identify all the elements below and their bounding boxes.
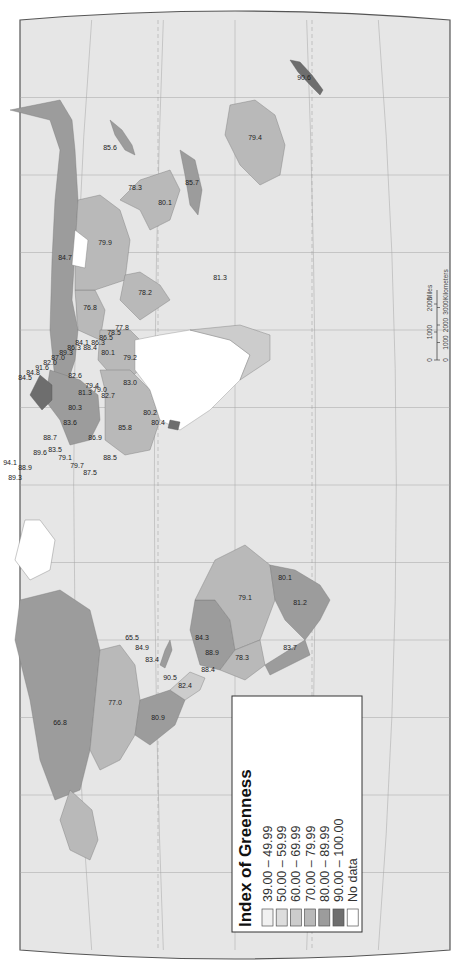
- region-value-label: 78.3: [235, 654, 249, 661]
- region-value-label: 87.5: [83, 469, 97, 476]
- legend-item: 70.00 – 79.99: [304, 825, 318, 926]
- region-value-label: 82.7: [101, 392, 115, 399]
- legend-swatch: [319, 909, 330, 926]
- region-value-label: 80.2: [143, 409, 157, 416]
- region-value-label: 82.4: [178, 682, 192, 689]
- region-value-label: 81.2: [293, 599, 307, 606]
- region-value-label: 83.4: [145, 656, 159, 663]
- region-value-label: 88.7: [43, 434, 57, 441]
- region-value-label: 88.5: [103, 454, 117, 461]
- region-value-label: 79.2: [123, 354, 137, 361]
- region-value-label: 85.8: [118, 424, 132, 431]
- region-value-label: 82.6: [68, 372, 82, 379]
- scale-km-label: 2000: [442, 317, 449, 332]
- scale-km-label: 3000: [442, 300, 449, 315]
- region-value-label: 80.1: [158, 199, 172, 206]
- legend-label: No data: [346, 858, 360, 902]
- legend-item: 80.00 – 89.99: [318, 825, 332, 926]
- region-value-label: 80.4: [151, 419, 165, 426]
- region-value-label: 81.3: [78, 389, 92, 396]
- region-value-label: 88.4: [201, 666, 215, 673]
- legend-title: Index of Greenness: [236, 769, 255, 927]
- map-canvas: 66.877.080.982.490.583.484.965.584.388.9…: [0, 0, 470, 971]
- region-value-label: 79.7: [70, 462, 84, 469]
- region-value-label: 94.1: [3, 459, 17, 466]
- region-value-label: 86.9: [88, 434, 102, 441]
- scale-km-label: 1000: [442, 335, 449, 350]
- legend-item: 39.00 – 49.99: [261, 825, 275, 926]
- region-value-label: 78.2: [138, 289, 152, 296]
- region-value-label: 81.3: [213, 274, 227, 281]
- region-value-label: 83.6: [63, 419, 77, 426]
- region-value-label: 84.7: [58, 254, 72, 261]
- region-value-label: 66.8: [53, 719, 67, 726]
- region-value-label: 85.7: [185, 179, 199, 186]
- region-value-label: 79.4: [248, 134, 262, 141]
- world-map: 66.877.080.982.490.583.484.965.584.388.9…: [0, 0, 470, 971]
- region-value-label: 77.0: [108, 699, 122, 706]
- legend-item: 90.00 – 100.00: [332, 819, 346, 926]
- region-value-label: 83.7: [283, 644, 297, 651]
- region-value-label: 85.6: [103, 144, 117, 151]
- legend-swatch: [333, 909, 344, 926]
- legend-item: 60.00 – 69.99: [289, 825, 303, 926]
- legend-label: 70.00 – 79.99: [304, 825, 318, 902]
- scale-miles-unit: Miles: [426, 284, 433, 300]
- scale-km-unit: Kilometers: [442, 269, 449, 300]
- legend-item: 50.00 – 59.99: [275, 825, 289, 926]
- region-ghana: [168, 420, 180, 430]
- region-value-label: 83.5: [48, 446, 62, 453]
- region-value-label: 78.3: [128, 184, 142, 191]
- scale-miles-label: 0: [426, 358, 433, 362]
- legend-swatch: [290, 909, 301, 926]
- legend-swatch: [262, 909, 273, 926]
- region-value-label: 77.8: [115, 324, 129, 331]
- legend-label: 60.00 – 69.99: [289, 825, 303, 902]
- legend-label: 90.00 – 100.00: [332, 819, 346, 902]
- region-value-label: 88.9: [18, 464, 32, 471]
- region-value-label: 88.9: [205, 649, 219, 656]
- region-value-label: 90.5: [163, 674, 177, 681]
- scale-miles-label: 1000: [426, 324, 433, 339]
- legend-swatch: [305, 909, 316, 926]
- region-value-label: 80.9: [151, 714, 165, 721]
- legend-item: No data: [346, 858, 360, 926]
- region-value-label: 79.9: [98, 239, 112, 246]
- region-value-label: 79.1: [58, 454, 72, 461]
- region-value-label: 89.6: [33, 449, 47, 456]
- region-value-label: 79.1: [238, 594, 252, 601]
- legend: Index of Greenness 39.00 – 49.9950.00 – …: [232, 696, 362, 932]
- legend-label: 50.00 – 59.99: [275, 825, 289, 902]
- region-value-label: 89.3: [8, 474, 22, 481]
- scale-km-label: 0: [442, 358, 449, 362]
- region-value-label: 80.3: [68, 404, 82, 411]
- region-value-label: 83.0: [123, 379, 137, 386]
- legend-label: 39.00 – 49.99: [261, 825, 275, 902]
- legend-swatch: [276, 909, 287, 926]
- region-value-label: 76.8: [83, 304, 97, 311]
- region-value-label: 90.6: [297, 74, 311, 81]
- legend-swatch: [347, 909, 358, 926]
- legend-label: 80.00 – 89.99: [318, 825, 332, 902]
- region-value-label: 80.1: [278, 574, 292, 581]
- region-value-label: 84.3: [195, 634, 209, 641]
- region-value-label: 65.5: [125, 634, 139, 641]
- region-value-label: 80.1: [101, 349, 115, 356]
- region-value-label: 84.9: [135, 644, 149, 651]
